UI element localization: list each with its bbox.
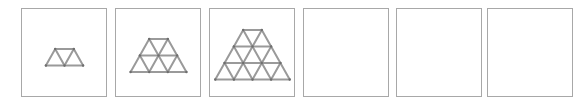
triangle-figures — [0, 0, 586, 104]
triangle-figure-2 — [129, 38, 187, 73]
triangle-figure-3 — [214, 29, 291, 81]
triangle-figure-1 — [45, 48, 85, 67]
